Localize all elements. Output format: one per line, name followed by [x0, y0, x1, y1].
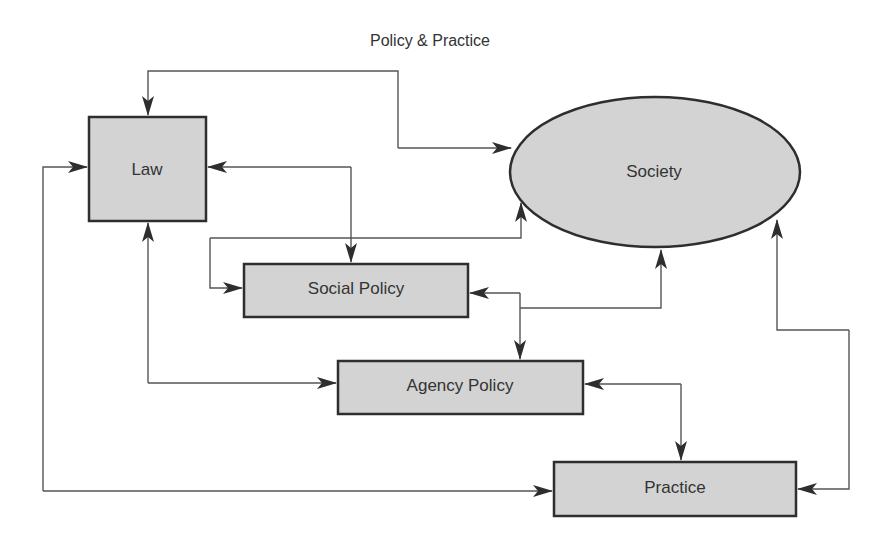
node-law-label: Law: [131, 160, 163, 179]
edge-practice-to-society: [777, 220, 849, 330]
edge-policy-junction-to-society: [520, 250, 661, 308]
node-society-label: Society: [626, 162, 682, 181]
node-society: Society: [510, 97, 800, 247]
edge-society-to-social-policy: [210, 238, 242, 288]
node-social-policy: Social Policy: [244, 264, 468, 317]
node-practice: Practice: [554, 462, 796, 516]
node-social-policy-label: Social Policy: [308, 279, 405, 298]
diagram-title: Policy & Practice: [370, 32, 490, 49]
policy-practice-diagram: Policy & Practice Law Society Social Pol…: [0, 0, 890, 549]
node-agency-policy: Agency Policy: [338, 361, 583, 414]
edge-social-policy-to-society: [210, 203, 521, 238]
edge-society-to-practice: [798, 330, 849, 489]
edge-practice-to-law: [43, 167, 87, 491]
node-agency-policy-label: Agency Policy: [407, 376, 514, 395]
node-law: Law: [89, 117, 206, 221]
node-practice-label: Practice: [644, 478, 705, 497]
